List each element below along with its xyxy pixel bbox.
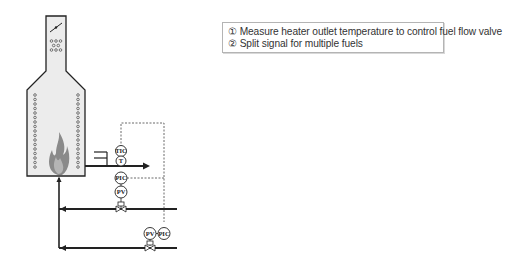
temperature-element[interactable]: T	[116, 156, 126, 166]
tic-label: TIC	[115, 147, 127, 154]
fuel-line-2	[59, 245, 177, 251]
notes-box: ① Measure heater outlet temperature to c…	[222, 22, 444, 53]
signal-lines	[121, 123, 164, 222]
note-1: ① Measure heater outlet temperature to c…	[228, 26, 443, 38]
pv-2-label: PV	[146, 230, 155, 237]
pv-1-label: PV	[117, 188, 126, 195]
note-2: ② Split signal for multiple fuels	[228, 38, 443, 50]
pic-1-label: PIC	[115, 174, 127, 181]
fuel-header-line	[57, 177, 62, 249]
pic-2-label: PIC	[158, 230, 170, 237]
thermowell-icon	[94, 152, 107, 166]
pic-2-instrument[interactable]: PIC	[156, 228, 170, 240]
te-label: T	[119, 157, 124, 164]
pic-1-instrument[interactable]: PIC	[115, 172, 127, 184]
tic-instrument[interactable]: TIC	[115, 146, 127, 157]
